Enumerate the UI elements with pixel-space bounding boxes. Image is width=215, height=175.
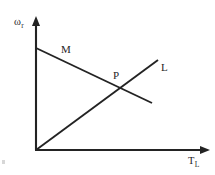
scan-artifact	[2, 160, 5, 164]
motor-characteristic-line	[36, 48, 152, 103]
motor-curve-label: M	[61, 44, 71, 55]
x-axis-arrowhead-icon	[200, 146, 210, 154]
figure-container: ωr TL M P L	[0, 0, 215, 175]
y-axis-arrowhead-icon	[32, 16, 40, 26]
y-axis-label-subscript: r	[21, 21, 24, 30]
y-axis-label: ωr	[14, 17, 24, 30]
x-axis-label-subscript: L	[195, 160, 200, 169]
x-axis-label: TL	[188, 156, 199, 169]
x-axis-label-symbol: T	[188, 155, 195, 166]
load-characteristic-line	[36, 60, 158, 150]
load-curve-label: L	[161, 62, 168, 73]
operating-point-label: P	[113, 70, 119, 81]
figure-canvas	[0, 0, 215, 175]
